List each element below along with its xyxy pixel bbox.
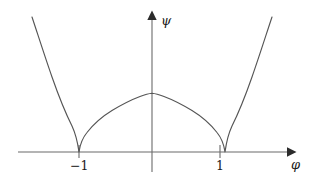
y-axis-label: ψ xyxy=(161,14,171,27)
x-axis-label: φ xyxy=(291,158,300,171)
x-axis-arrowhead xyxy=(287,147,297,157)
x-tick-label-pos1: 1 xyxy=(216,160,224,173)
figure-container: ψ φ −1 1 xyxy=(0,0,313,185)
y-axis-arrowhead xyxy=(147,11,156,21)
x-tick-label-neg1: −1 xyxy=(70,160,88,173)
plot-canvas xyxy=(0,0,313,185)
